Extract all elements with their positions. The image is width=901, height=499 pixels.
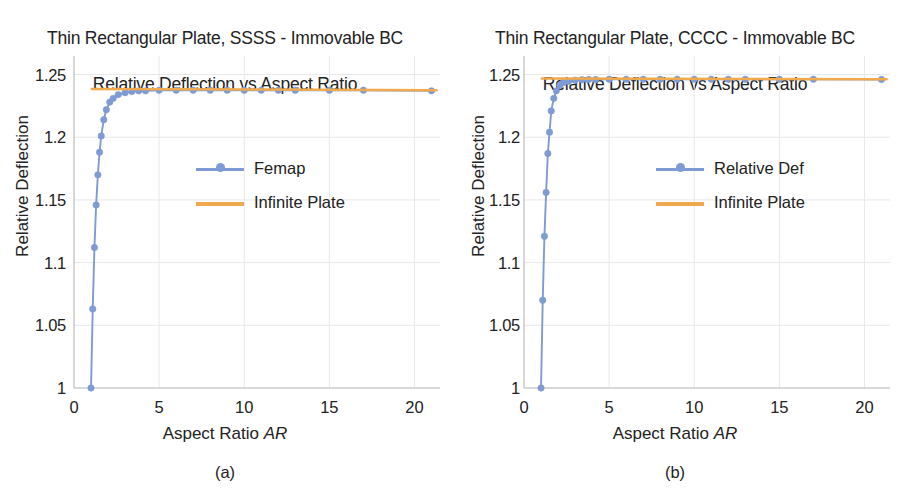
- x-axis-label-text: Aspect Ratio: [613, 424, 714, 443]
- x-tick-label: 0: [54, 398, 94, 417]
- series-line-femap: [91, 90, 431, 388]
- subfigure-caption-b: (b): [450, 463, 900, 482]
- subfigure-caption-a: (a): [0, 463, 450, 482]
- plot-canvas-a: [0, 0, 450, 420]
- series-line-infinite-plate: [92, 89, 437, 90]
- x-tick-label: 15: [309, 398, 349, 417]
- x-tick-label: 10: [224, 398, 264, 417]
- legend-marker-dot-icon: [676, 163, 685, 172]
- x-axis-label: Aspect Ratio AR: [450, 424, 900, 444]
- series-markers: [88, 87, 435, 391]
- chart-panel-a: Thin Rectangular Plate, SSSS - Immovable…: [0, 0, 450, 499]
- gridlines: [524, 56, 890, 388]
- legend-label: Relative Def: [714, 159, 804, 178]
- x-axis-label: Aspect Ratio AR: [0, 424, 450, 444]
- x-axis-label-text: Aspect Ratio: [163, 424, 264, 443]
- x-tick-label: 20: [844, 398, 884, 417]
- x-tick-label: 15: [759, 398, 799, 417]
- x-tick-label: 0: [504, 398, 544, 417]
- series-line-relative-def: [541, 79, 881, 388]
- x-axis-label-symbol: AR: [714, 424, 738, 443]
- x-tick-label: 10: [674, 398, 714, 417]
- plot-area-a: Relative Deflection 11.051.11.151.21.25 …: [0, 0, 450, 420]
- x-tick-label: 20: [394, 398, 434, 417]
- series-line-infinite-plate: [542, 79, 887, 80]
- legend-label: Infinite Plate: [254, 193, 345, 212]
- legend-line-icon: [196, 202, 244, 206]
- legend-label: Femap: [254, 159, 305, 178]
- series-markers: [538, 76, 885, 391]
- x-tick-label: 5: [589, 398, 629, 417]
- x-axis-label-symbol: AR: [264, 424, 288, 443]
- chart-panel-b: Thin Rectangular Plate, CCCC - Immovable…: [450, 0, 900, 499]
- legend-marker-dot-icon: [216, 163, 225, 172]
- x-tick-label: 5: [139, 398, 179, 417]
- legend-label: Infinite Plate: [714, 193, 805, 212]
- gridlines: [74, 56, 440, 388]
- axis-spines: [524, 56, 890, 388]
- plot-area-b: Relative Deflection 11.051.11.151.21.25 …: [450, 0, 900, 420]
- legend-line-icon: [656, 202, 704, 206]
- plot-canvas-b: [450, 0, 900, 420]
- figure-root: Thin Rectangular Plate, SSSS - Immovable…: [0, 0, 901, 499]
- axis-spines: [74, 56, 440, 388]
